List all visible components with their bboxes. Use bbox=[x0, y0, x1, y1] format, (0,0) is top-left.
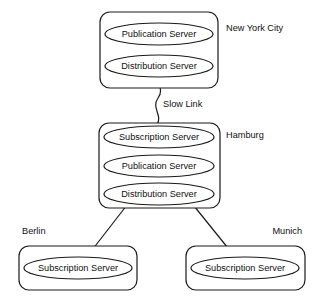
diagram-canvas: Publication Server Distribution Server N… bbox=[0, 0, 319, 302]
site-munich[interactable]: Munich Subscription Server bbox=[186, 226, 305, 290]
server-label: Subscription Server bbox=[119, 132, 199, 142]
server-label: Publication Server bbox=[122, 161, 197, 171]
server-node-subscription-server-berlin[interactable]: Subscription Server bbox=[24, 257, 132, 279]
server-label: Distribution Server bbox=[121, 189, 197, 199]
server-label: Subscription Server bbox=[205, 263, 285, 273]
server-node-publication-server-hamburg[interactable]: Publication Server bbox=[104, 155, 214, 177]
server-label: Publication Server bbox=[122, 29, 197, 39]
site-new-york-city[interactable]: Publication Server Distribution Server N… bbox=[100, 12, 284, 88]
server-label: Subscription Server bbox=[38, 263, 118, 273]
site-hamburg[interactable]: Subscription Server Publication Server D… bbox=[99, 123, 264, 208]
site-label-new-york-city: New York City bbox=[226, 23, 284, 33]
site-label-munich: Munich bbox=[272, 226, 302, 236]
server-node-distribution-server-hamburg[interactable]: Distribution Server bbox=[104, 183, 214, 205]
server-label: Distribution Server bbox=[121, 61, 197, 71]
site-berlin[interactable]: Berlin Subscription Server bbox=[19, 226, 137, 290]
site-label-hamburg: Hamburg bbox=[226, 130, 264, 140]
server-node-subscription-server-munich[interactable]: Subscription Server bbox=[191, 257, 299, 279]
link-label-slow-link: Slow Link bbox=[163, 99, 203, 109]
server-node-distribution-server-nyc[interactable]: Distribution Server bbox=[105, 55, 213, 77]
server-node-publication-server-nyc[interactable]: Publication Server bbox=[105, 23, 213, 45]
replication-topology-diagram: Publication Server Distribution Server N… bbox=[0, 0, 319, 302]
site-label-berlin: Berlin bbox=[22, 226, 46, 236]
server-node-subscription-server-hamburg[interactable]: Subscription Server bbox=[104, 126, 214, 148]
